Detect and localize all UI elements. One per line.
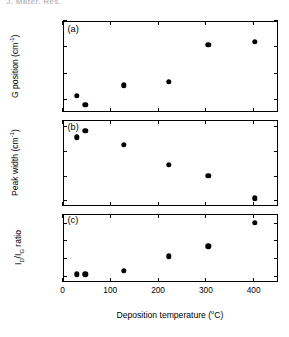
panel-b-x-tick — [253, 120, 254, 124]
panel-b-y-axis-title: Peak width (cm-1) — [11, 129, 20, 196]
panel-c-y-axis-title-tail: ratio — [13, 230, 23, 249]
panel-a-x-tick — [253, 108, 254, 112]
panel-b-y-tick-right — [274, 126, 278, 127]
panel-c-x-tick — [110, 278, 111, 282]
panel-a-x-tick — [110, 21, 111, 25]
x-tick-label: 200 — [138, 286, 178, 294]
panel-b-y-axis-unit-exponent: -1 — [9, 132, 15, 137]
panel-a-y-tick-right — [274, 46, 278, 47]
panel-c-plot-frame — [63, 214, 278, 282]
panel-c-x-tick — [205, 278, 206, 282]
x-axis-title: Deposition temperature (oC) — [117, 311, 224, 320]
x-axis-title-text: Deposition temperature ( — [117, 310, 212, 320]
panel-a-y-tick — [63, 99, 67, 100]
panel-c-y-tick — [63, 223, 67, 224]
panel-a-y-tick — [63, 46, 67, 47]
x-tick-label: 0 — [43, 286, 83, 294]
panel-b-y-tick-right — [274, 151, 278, 152]
panel-b-x-tick — [253, 202, 254, 206]
panel-c-y-axis-subscript-g: G — [19, 249, 25, 254]
panel-c-x-tick — [253, 278, 254, 282]
panel-a-x-tick — [62, 108, 63, 112]
panel-c-y-tick — [63, 276, 67, 277]
panel-a-y-axis-title: G position (cm-1) — [11, 34, 20, 97]
panel-c-x-tick — [62, 278, 63, 282]
figure-container: J. Mater. Res. (a) G position (cm-1) 155… — [0, 0, 289, 337]
panel-c-y-tick-right — [274, 223, 278, 224]
panel-c-y-axis-subscript-d: D — [19, 258, 25, 262]
panel-c-y-tick — [63, 240, 67, 241]
x-tick-label: 300 — [186, 286, 226, 294]
panel-b-y-tick — [63, 151, 67, 152]
panel-c-y-tick-right — [274, 258, 278, 259]
panel-b-y-tick — [63, 200, 67, 201]
panel-a-x-tick — [205, 108, 206, 112]
panel-b-y-tick-right — [274, 176, 278, 177]
panel-b-x-tick — [205, 120, 206, 124]
panel-c-x-tick — [158, 214, 159, 218]
panel-b-x-tick — [110, 202, 111, 206]
panel-b-y-axis-title-text: Peak width (cm — [10, 137, 20, 196]
panel-c-x-tick — [158, 278, 159, 282]
panel-b-x-tick — [158, 120, 159, 124]
x-tick-label: 100 — [90, 286, 130, 294]
panel-c-y-axis-title-i-g: /I — [13, 254, 23, 259]
panel-b-x-tick — [62, 120, 63, 124]
panel-b-y-tick — [63, 126, 67, 127]
panel-a-y-axis-title-text: G position (cm — [10, 42, 20, 97]
panel-b-x-tick — [62, 202, 63, 206]
panel-b-x-tick — [110, 120, 111, 124]
page-header: J. Mater. Res. — [6, 0, 61, 6]
panel-c-x-tick — [110, 214, 111, 218]
panel-a-x-tick — [110, 108, 111, 112]
panel-c-x-tick — [205, 214, 206, 218]
panel-b-label: (b) — [68, 123, 79, 132]
panel-c-y-tick-right — [274, 240, 278, 241]
panel-c-y-axis-title: ID/IG ratio — [14, 230, 23, 265]
panel-a-x-tick — [62, 21, 63, 25]
panel-a-y-axis-title-tail: ) — [10, 34, 20, 37]
panel-a-y-tick-right — [274, 20, 278, 21]
panel-c-y-tick-right — [274, 276, 278, 277]
panel-c-y-tick — [63, 258, 67, 259]
panel-b-x-tick — [205, 202, 206, 206]
panel-a-y-tick-right — [274, 73, 278, 74]
panel-c-x-tick — [253, 214, 254, 218]
panel-b-x-tick — [158, 202, 159, 206]
panel-a-x-tick — [158, 108, 159, 112]
panel-b-y-tick-right — [274, 200, 278, 201]
panel-a-y-tick — [63, 73, 67, 74]
panel-b-y-tick — [63, 176, 67, 177]
panel-a-x-tick — [158, 21, 159, 25]
panel-a-plot-frame — [63, 21, 278, 112]
panel-a-y-tick — [63, 20, 67, 21]
x-axis-title-tail: C) — [214, 310, 223, 320]
panel-c-x-tick — [62, 214, 63, 218]
panel-a-label: (a) — [68, 25, 79, 34]
panel-a-y-tick-right — [274, 99, 278, 100]
panel-b-y-axis-title-tail: ) — [10, 129, 20, 132]
x-tick-label: 400 — [234, 286, 274, 294]
panel-a-x-tick — [205, 21, 206, 25]
panel-c-label: (c) — [68, 216, 79, 225]
panel-a-x-tick — [253, 21, 254, 25]
panel-a-y-axis-unit-exponent: -1 — [9, 37, 15, 42]
